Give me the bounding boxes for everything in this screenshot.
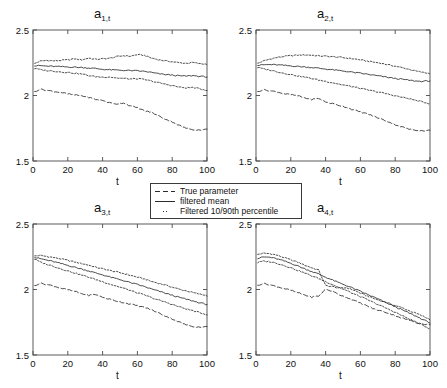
xaxis-label-a2t: t <box>339 176 342 187</box>
svg-text:80: 80 <box>167 358 178 369</box>
svg-text:2.5: 2.5 <box>16 219 29 230</box>
svg-text:80: 80 <box>390 164 401 175</box>
svg-text:1.5: 1.5 <box>239 350 252 361</box>
svg-text:0: 0 <box>253 164 258 175</box>
svg-text:60: 60 <box>132 164 143 175</box>
subplot-a1t: a1,t 0204060801001.522.5 t <box>0 0 223 194</box>
svg-text:0: 0 <box>30 164 35 175</box>
subplot-a3t: a3,t 0204060801001.522.5 t <box>0 194 223 388</box>
svg-text:2.5: 2.5 <box>239 25 252 36</box>
figure-root: a1,t 0204060801001.522.5 t a2,t 02040608… <box>0 0 447 388</box>
svg-text:1.5: 1.5 <box>16 350 29 361</box>
subplot-title-a4t: a4,t <box>317 200 333 217</box>
svg-text:2: 2 <box>247 284 252 295</box>
svg-text:0: 0 <box>253 358 258 369</box>
svg-text:20: 20 <box>286 358 297 369</box>
svg-text:2: 2 <box>24 90 29 101</box>
legend-label-filtered-percentile: Filtered 10/90th percentile <box>180 207 278 216</box>
svg-text:100: 100 <box>199 358 215 369</box>
svg-text:40: 40 <box>320 164 331 175</box>
subplot-title-a1t: a1,t <box>94 6 110 23</box>
dotted-line-key <box>154 207 176 216</box>
plot-canvas-a4t: 0204060801001.522.5 <box>223 194 447 388</box>
svg-text:2.5: 2.5 <box>239 219 252 230</box>
subplot-a4t: a4,t 0204060801001.522.5 t <box>223 194 447 388</box>
legend-item-true-parameter: True parameter <box>154 187 297 196</box>
xaxis-label-a3t: t <box>116 370 119 381</box>
svg-text:20: 20 <box>63 358 74 369</box>
plot-canvas-a1t: 0204060801001.522.5 <box>0 0 223 194</box>
legend-box: True parameter filtered mean Filtered 10… <box>150 183 302 219</box>
legend-label-filtered-mean: filtered mean <box>180 197 229 206</box>
subplot-a2t: a2,t 0204060801001.522.5 t <box>223 0 447 194</box>
svg-text:40: 40 <box>320 358 331 369</box>
subplot-title-a3t: a3,t <box>94 200 110 217</box>
plot-canvas-a3t: 0204060801001.522.5 <box>0 194 223 388</box>
svg-text:0: 0 <box>30 358 35 369</box>
svg-text:2.5: 2.5 <box>16 25 29 36</box>
svg-text:60: 60 <box>132 358 143 369</box>
svg-text:100: 100 <box>422 164 438 175</box>
legend-item-filtered-mean: filtered mean <box>154 197 297 206</box>
legend-item-filtered-percentile: Filtered 10/90th percentile <box>154 207 297 216</box>
svg-text:80: 80 <box>390 358 401 369</box>
svg-text:2: 2 <box>24 284 29 295</box>
svg-text:100: 100 <box>422 358 438 369</box>
xaxis-label-a4t: t <box>339 370 342 381</box>
svg-text:60: 60 <box>355 164 366 175</box>
svg-text:40: 40 <box>97 164 108 175</box>
solid-line-key <box>154 197 176 206</box>
svg-text:20: 20 <box>286 164 297 175</box>
svg-text:100: 100 <box>199 164 215 175</box>
svg-text:2: 2 <box>247 90 252 101</box>
svg-text:1.5: 1.5 <box>16 156 29 167</box>
legend-label-true-parameter: True parameter <box>180 187 238 196</box>
plot-canvas-a2t: 0204060801001.522.5 <box>223 0 447 194</box>
dashed-line-key <box>154 187 176 196</box>
svg-text:1.5: 1.5 <box>239 156 252 167</box>
svg-text:40: 40 <box>97 358 108 369</box>
subplot-title-a2t: a2,t <box>317 6 333 23</box>
svg-text:80: 80 <box>167 164 178 175</box>
xaxis-label-a1t: t <box>116 176 119 187</box>
svg-text:60: 60 <box>355 358 366 369</box>
svg-text:20: 20 <box>63 164 74 175</box>
